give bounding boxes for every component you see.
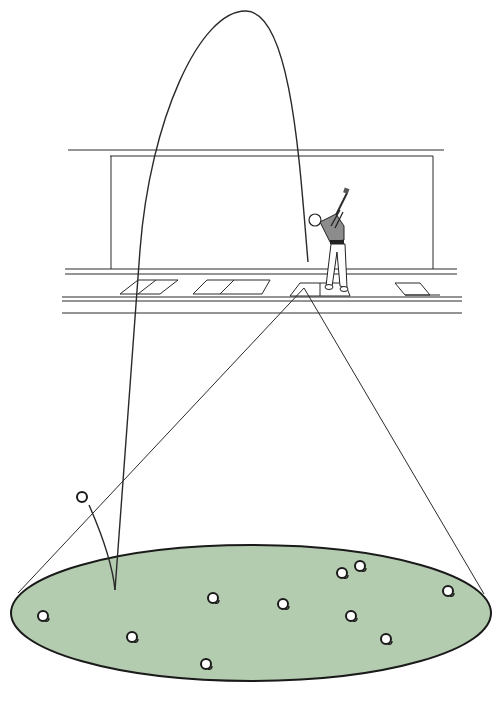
golf-ball [381, 634, 391, 644]
bounce-ball [77, 492, 87, 502]
golf-ball [278, 599, 288, 609]
golf-ball [337, 568, 347, 578]
golf-ball [443, 586, 453, 596]
golfer [309, 187, 350, 291]
target-green [11, 545, 491, 681]
golf-ball [208, 593, 218, 603]
hitting-mats [120, 280, 440, 296]
range-structure [62, 150, 462, 313]
golf-ball [38, 611, 48, 621]
golf-ball [127, 632, 137, 642]
ball-flight-arc [115, 11, 308, 590]
golf-ball [346, 611, 356, 621]
golf-ball [201, 659, 211, 669]
golf-ball [355, 561, 365, 571]
driving-range-illustration [0, 0, 499, 719]
